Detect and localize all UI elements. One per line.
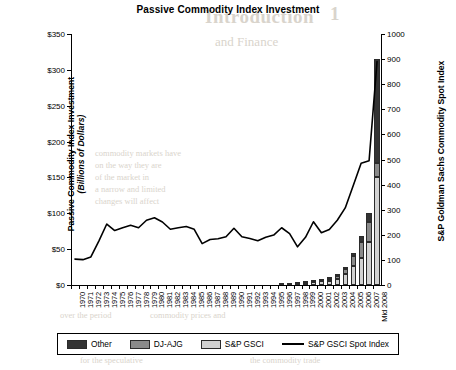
y-axis-left-tick-label: $200 [19, 137, 65, 146]
y-axis-right-tick [381, 109, 385, 110]
x-axis-tick [286, 285, 287, 289]
x-axis-tick [294, 285, 295, 289]
y-axis-left-tick-label: $250 [19, 101, 65, 110]
y-axis-right-tick [381, 235, 385, 236]
legend-label: S&P GSCI Spot Index [308, 339, 389, 349]
x-axis-tick [333, 285, 334, 289]
legend-item-s-p-gsci: S&P GSCI [201, 339, 264, 349]
x-axis-tick-label: Mid 2008 [380, 292, 389, 322]
x-axis-tick [190, 285, 191, 289]
x-axis-tick [143, 285, 144, 289]
y-axis-right-tick-label: 800 [387, 80, 427, 89]
x-axis-tick [198, 285, 199, 289]
x-axis [71, 285, 381, 286]
x-axis-tick [127, 285, 128, 289]
x-axis-tick [206, 285, 207, 289]
legend-label: Other [91, 339, 112, 349]
x-axis-tick [222, 285, 223, 289]
x-axis-tick [95, 285, 96, 289]
legend-item-other: Other [67, 339, 112, 349]
y-axis-right-tick [381, 185, 385, 186]
ghost-line-7: commodity prices and [150, 310, 226, 321]
y-axis-right-tick [381, 59, 385, 60]
x-axis-tick [111, 285, 112, 289]
y-axis-left-tick-label: $0 [19, 281, 65, 290]
y-axis-right-tick [381, 84, 385, 85]
legend-item-s-p-gsci-spot-index: S&P GSCI Spot Index [282, 339, 389, 349]
chart-legend: OtherDJ-AJGS&P GSCIS&P GSCI Spot Index [57, 333, 399, 355]
x-axis-tick [158, 285, 159, 289]
x-axis-tick [357, 285, 358, 289]
legend-label: S&P GSCI [225, 339, 264, 349]
y-axis-left-tick-label: $100 [19, 209, 65, 218]
ghost-line-9: the commodity trade [250, 355, 320, 366]
legend-color-swatch [130, 340, 150, 349]
legend-color-swatch [201, 340, 221, 349]
x-axis-tick [246, 285, 247, 289]
x-axis-tick [373, 285, 374, 289]
x-axis-tick [262, 285, 263, 289]
x-axis-tick [135, 285, 136, 289]
y-axis-left-title: Passive Commodity Index Investment (Bill… [66, 0, 86, 364]
x-axis-tick [87, 285, 88, 289]
y-axis-left-tick-label: $150 [19, 173, 65, 182]
x-axis-tick [214, 285, 215, 289]
y-axis-right-tick-label: 700 [387, 105, 427, 114]
x-axis-tick [254, 285, 255, 289]
y-axis-right-tick-label: 600 [387, 130, 427, 139]
y-axis-right-tick [381, 285, 385, 286]
y-axis-right-tick-label: 400 [387, 180, 427, 189]
x-axis-tick [278, 285, 279, 289]
y-axis-right-tick-label: 100 [387, 255, 427, 264]
x-axis-tick [341, 285, 342, 289]
legend-label: DJ-AJG [154, 339, 183, 349]
y-axis-right-tick-label: 300 [387, 205, 427, 214]
x-axis-tick [365, 285, 366, 289]
legend-color-swatch [67, 340, 87, 349]
x-axis-tick [166, 285, 167, 289]
y-axis-right-tick-label: 0 [387, 281, 427, 290]
x-axis-tick [238, 285, 239, 289]
y-axis-right-title: S&P Goldman Sachs Commodity Spot Index [436, 0, 446, 361]
x-axis-tick [230, 285, 231, 289]
y-axis-left-title-sub: (Billions of Dollars) [76, 0, 86, 364]
x-axis-tick [174, 285, 175, 289]
plot-area: $0$50$100$150$200$250$300$350 0100200300… [71, 34, 381, 285]
y-axis-right-tick [381, 260, 385, 261]
y-axis-left-tick-label: $350 [19, 30, 65, 39]
y-axis-right-tick [381, 210, 385, 211]
y-axis-right-tick-label: 500 [387, 155, 427, 164]
y-axis-right-tick [381, 134, 385, 135]
legend-item-dj-ajg: DJ-AJG [130, 339, 183, 349]
y-axis-right-tick-label: 1000 [387, 30, 427, 39]
x-axis-tick [182, 285, 183, 289]
x-axis-tick [119, 285, 120, 289]
ghost-line-8: for the speculative [80, 355, 143, 366]
chart-figure: 1 Introduction and Finance commodity mar… [0, 0, 456, 370]
y-axis-right-tick [381, 34, 385, 35]
y-axis-left-title-main: Passive Commodity Index Investment [66, 77, 76, 231]
x-axis-tick [270, 285, 271, 289]
x-axis-tick [317, 285, 318, 289]
x-axis-tick [150, 285, 151, 289]
x-axis-tick [349, 285, 350, 289]
y-axis-right-tick-label: 900 [387, 55, 427, 64]
x-axis-tick [325, 285, 326, 289]
x-axis-tick [302, 285, 303, 289]
x-axis-tick [309, 285, 310, 289]
y-axis-left-tick-label: $300 [19, 65, 65, 74]
legend-line-swatch [282, 343, 304, 345]
y-axis-left-tick-label: $50 [19, 245, 65, 254]
y-axis-right-tick-label: 200 [387, 230, 427, 239]
spot-index-line [71, 34, 381, 285]
y-axis-right-tick [381, 160, 385, 161]
x-axis-tick [103, 285, 104, 289]
